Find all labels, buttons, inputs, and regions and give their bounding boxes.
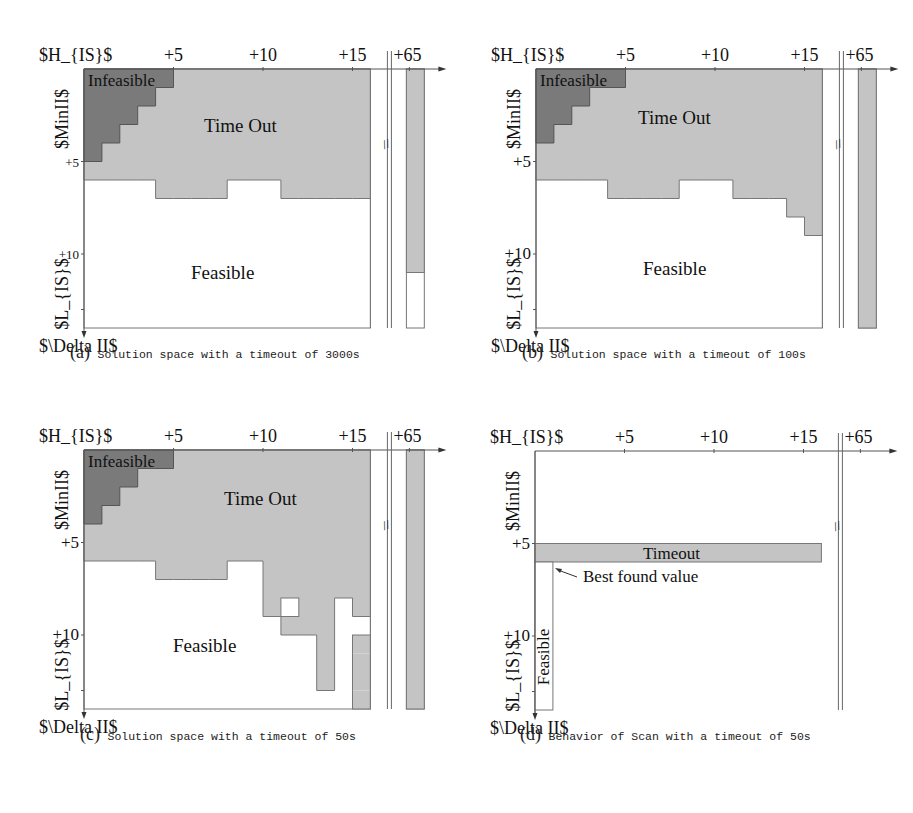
panel-a: InfeasibleTime OutFeasible//+5+10+15+65$… (39, 45, 446, 363)
x-axis-arrow-icon (438, 448, 446, 453)
x-tick-label: +5 (164, 45, 183, 65)
x-far-tick-label: +65 (393, 45, 421, 65)
y-axis-label-top: $MinII$ (504, 89, 524, 149)
x-far-tick-label: +65 (844, 427, 872, 447)
x-tick-label: +15 (338, 426, 366, 446)
far-column-timeout (406, 69, 424, 273)
y-axis-label-top: $MinII$ (52, 89, 72, 149)
feasible-label: Feasible (173, 635, 236, 656)
y-axis-label-top: $MinII$ (503, 471, 523, 531)
panel-b: InfeasibleTime OutFeasible//+5+10+15+65$… (491, 45, 898, 363)
x-tick-label: +10 (701, 45, 729, 65)
timeout-label: Time Out (638, 107, 711, 128)
x-axis-arrow-icon (438, 67, 446, 72)
x-far-tick-label: +65 (845, 45, 873, 65)
timeout-label: Time Out (204, 115, 277, 136)
corner-label: $\Delta II$ (39, 717, 117, 737)
timeout-cell (353, 691, 371, 710)
timeout-label: Time Out (224, 488, 297, 509)
y-tick-label: +5 (65, 155, 79, 170)
y-tick-label: +5 (61, 533, 79, 552)
x-origin-label: $H_{IS}$ (490, 427, 563, 447)
y-axis-label-bottom: $L_{IS}$ (52, 639, 72, 710)
x-tick-label: +15 (790, 45, 818, 65)
figure: InfeasibleTime OutFeasible//+5+10+15+65$… (0, 0, 913, 813)
x-tick-label: +15 (789, 427, 817, 447)
x-tick-label: +15 (338, 45, 366, 65)
x-tick-label: +10 (249, 426, 277, 446)
timeout-cell (353, 672, 371, 691)
best-found-annotation: Best found value (583, 567, 698, 586)
infeasible-label: Infeasible (88, 452, 155, 471)
x-origin-label: $H_{IS}$ (491, 45, 564, 65)
y-axis-label-bottom: $L_{IS}$ (503, 640, 523, 711)
y-tick-label: +5 (512, 534, 530, 553)
panel-c: InfeasibleTime OutFeasible//+5+10+15+65$… (39, 426, 446, 745)
far-column-timeout (858, 69, 876, 328)
axis-break-icon: // (831, 517, 843, 534)
x-tick-label: +5 (164, 426, 183, 446)
x-origin-label: $H_{IS}$ (39, 45, 112, 65)
x-tick-label: +10 (249, 45, 277, 65)
y-axis-label-bottom: $L_{IS}$ (52, 258, 72, 329)
x-tick-label: +10 (700, 427, 728, 447)
axis-break-icon: // (380, 135, 392, 152)
timeout-label: Timeout (643, 544, 700, 563)
panel-d: TimeoutFeasibleBest found value//+5+10+1… (490, 427, 897, 745)
x-axis-arrow-icon (889, 449, 897, 454)
feasible-label: Feasible (191, 262, 254, 283)
axis-break-icon: // (380, 516, 392, 533)
x-tick-label: +5 (615, 427, 634, 447)
feasible-hole (281, 598, 299, 617)
caption: (c) Solution space with a timeout of 50s (80, 724, 356, 745)
x-far-tick-label: +65 (393, 426, 421, 446)
timeout-cell (353, 635, 371, 654)
axis-break-icon: // (832, 135, 844, 152)
y-tick-label: +5 (513, 152, 531, 171)
timeout-cell (353, 654, 371, 673)
infeasible-label: Infeasible (540, 71, 607, 90)
y-axis-label-top: $MinII$ (52, 470, 72, 530)
infeasible-label: Infeasible (88, 71, 155, 90)
x-tick-label: +5 (616, 45, 635, 65)
x-axis-arrow-icon (890, 67, 898, 72)
y-axis-label-bottom: $L_{IS}$ (504, 258, 524, 329)
feasible-label: Feasible (643, 258, 706, 279)
feasible-label: Feasible (534, 629, 553, 686)
far-column-timeout (406, 450, 424, 709)
x-origin-label: $H_{IS}$ (39, 426, 112, 446)
